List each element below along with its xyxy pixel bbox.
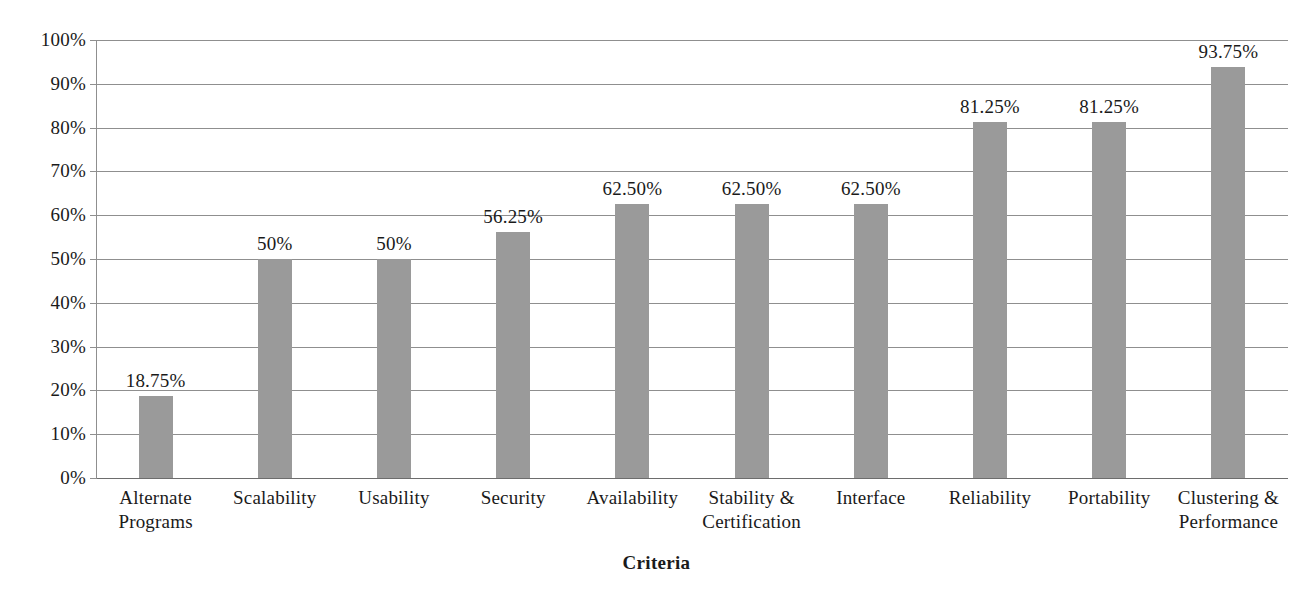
bar[interactable] — [615, 204, 649, 478]
bar-chart: 0%10%20%30%40%50%60%70%80%90%100% 18.75%… — [0, 0, 1313, 593]
bar-slot: 62.50% — [573, 40, 692, 478]
y-axis-tick-label: 40% — [6, 293, 86, 312]
bar-slot: 50% — [334, 40, 453, 478]
bar-slot: 81.25% — [930, 40, 1049, 478]
x-axis-category-label: Reliability — [930, 486, 1049, 510]
bar-slot: 93.75% — [1169, 40, 1288, 478]
x-axis-category-label: Portability — [1050, 486, 1169, 510]
bar-slot: 62.50% — [811, 40, 930, 478]
x-axis-category-label: AlternatePrograms — [96, 486, 215, 534]
bar[interactable] — [139, 396, 173, 478]
x-axis-category-line: Performance — [1169, 510, 1288, 534]
x-axis-category-label: Interface — [811, 486, 930, 510]
bar[interactable] — [496, 232, 530, 478]
bar-value-label: 62.50% — [841, 179, 901, 198]
bar-value-label: 50% — [376, 234, 411, 253]
y-axis-tick-label: 60% — [6, 205, 86, 224]
y-axis-tick-label: 20% — [6, 380, 86, 399]
bar-value-label: 50% — [257, 234, 292, 253]
gridline — [96, 478, 1288, 479]
y-axis-tick-label: 30% — [6, 337, 86, 356]
bar-slot: 18.75% — [96, 40, 215, 478]
y-axis-tick-label: 10% — [6, 424, 86, 443]
bar[interactable] — [973, 122, 1007, 478]
x-axis-category-line: Stability & — [692, 486, 811, 510]
bar[interactable] — [377, 259, 411, 478]
x-axis-category-label: Stability &Certification — [692, 486, 811, 534]
x-axis-category-line: Programs — [96, 510, 215, 534]
x-axis-category-label: Usability — [334, 486, 453, 510]
x-axis-category-line: Clustering & — [1169, 486, 1288, 510]
bar-value-label: 62.50% — [603, 179, 663, 198]
x-axis-category-line: Scalability — [215, 486, 334, 510]
y-axis-tick-label: 50% — [6, 249, 86, 268]
bar-value-label: 93.75% — [1199, 42, 1259, 61]
bar[interactable] — [735, 204, 769, 478]
y-axis-tick-label: 0% — [6, 468, 86, 487]
bar-value-label: 56.25% — [483, 207, 543, 226]
x-axis-category-line: Reliability — [930, 486, 1049, 510]
y-axis-tick-label: 100% — [6, 30, 86, 49]
bar-value-label: 81.25% — [1079, 97, 1139, 116]
x-axis-title: Criteria — [0, 552, 1313, 574]
y-axis-tick-label: 80% — [6, 118, 86, 137]
x-axis-category-line: Usability — [334, 486, 453, 510]
x-axis-category-line: Availability — [573, 486, 692, 510]
bar-slot: 62.50% — [692, 40, 811, 478]
bar-value-label: 18.75% — [126, 371, 186, 390]
x-axis-category-label: Security — [454, 486, 573, 510]
x-axis-labels: AlternateProgramsScalabilityUsabilitySec… — [96, 486, 1288, 542]
x-axis-category-line: Security — [454, 486, 573, 510]
x-axis-category-line: Certification — [692, 510, 811, 534]
bar[interactable] — [854, 204, 888, 478]
bar[interactable] — [258, 259, 292, 478]
x-axis-category-label: Clustering &Performance — [1169, 486, 1288, 534]
bar-slot: 50% — [215, 40, 334, 478]
x-axis-category-line: Alternate — [96, 486, 215, 510]
x-axis-category-line: Interface — [811, 486, 930, 510]
x-axis-category-line: Portability — [1050, 486, 1169, 510]
bar[interactable] — [1092, 122, 1126, 478]
x-axis-category-label: Scalability — [215, 486, 334, 510]
bar-value-label: 81.25% — [960, 97, 1020, 116]
bar-value-label: 62.50% — [722, 179, 782, 198]
y-axis-tick-label: 70% — [6, 161, 86, 180]
bars-layer: 18.75%50%50%56.25%62.50%62.50%62.50%81.2… — [96, 40, 1288, 478]
y-axis-tick-label: 90% — [6, 74, 86, 93]
bar[interactable] — [1211, 67, 1245, 478]
bar-slot: 56.25% — [454, 40, 573, 478]
x-axis-category-label: Availability — [573, 486, 692, 510]
bar-slot: 81.25% — [1050, 40, 1169, 478]
